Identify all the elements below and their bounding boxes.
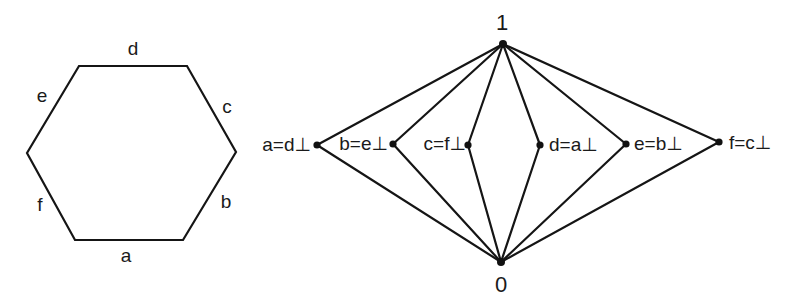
hexagon: d c b a f e (27, 38, 236, 266)
atom-d-label: d=a⊥ (549, 134, 598, 155)
edge-top-f (503, 44, 719, 142)
hexagon-outline (27, 66, 236, 240)
bottom-element-label: 0 (495, 272, 507, 297)
atom-e-label: e=b⊥ (634, 133, 683, 154)
hexagon-side-top-label: d (128, 38, 139, 59)
hexagon-side-lower-left-label: f (37, 194, 43, 215)
hexagon-side-lower-right-label: b (221, 191, 232, 212)
atom-a-label: a=d⊥ (262, 134, 311, 155)
node-bottom (497, 258, 505, 266)
figure: d c b a f e (0, 0, 805, 301)
node-b (389, 140, 396, 147)
top-element-label: 1 (496, 10, 508, 35)
diagram-svg: d c b a f e (0, 0, 805, 301)
atom-c-label: c=f⊥ (424, 133, 466, 154)
node-top (499, 40, 507, 48)
atom-f-label: f=c⊥ (729, 132, 771, 153)
atom-b-label: b=e⊥ (339, 133, 388, 154)
hexagon-side-bottom-label: a (121, 245, 132, 266)
hexagon-side-upper-right-label: c (222, 96, 232, 117)
node-f (715, 138, 722, 145)
node-d (536, 141, 543, 148)
node-a (313, 141, 320, 148)
node-e (622, 140, 629, 147)
hexagon-side-upper-left-label: e (37, 85, 48, 106)
